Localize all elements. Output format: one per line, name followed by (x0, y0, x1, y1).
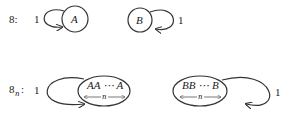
graph-diagram: 8: 1 A B 1 8 n : 1 AA ⋯ A n BB ⋯ B n 1 (0, 0, 295, 115)
row1-left-loop-weight: 1 (34, 13, 40, 25)
row1-label: 8: (9, 13, 18, 25)
node-bb-label: BB ⋯ B (182, 79, 219, 91)
node-aa-label: AA ⋯ A (86, 79, 124, 91)
self-loop-arrow (150, 10, 173, 29)
node-b-label: B (136, 14, 143, 26)
row1-right-graph: B 1 (128, 8, 184, 32)
row1-right-loop-weight: 1 (178, 14, 184, 26)
row2-left-loop-weight: 1 (34, 84, 40, 96)
span-label-n: n (198, 93, 203, 101)
svg-text:n: n (15, 90, 20, 98)
self-loop-arrow (222, 77, 270, 105)
span-label-n: n (102, 93, 107, 101)
node-a-label: A (70, 13, 78, 25)
self-loop-arrow (44, 10, 64, 27)
row1-left-graph: 1 A (34, 6, 88, 32)
row2-label: 8 n : (9, 83, 24, 98)
svg-text::: : (21, 83, 24, 95)
row2-left-graph: 1 AA ⋯ A n (34, 76, 130, 106)
row2-right-loop-weight: 1 (275, 86, 281, 98)
row2-right-graph: BB ⋯ B n 1 (173, 76, 281, 106)
